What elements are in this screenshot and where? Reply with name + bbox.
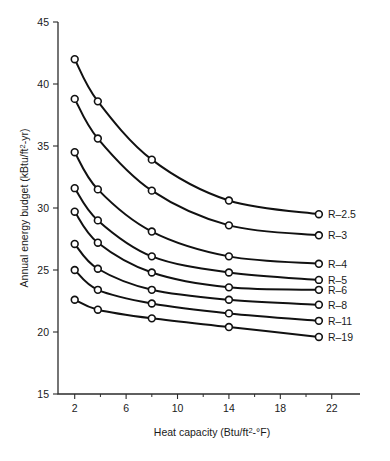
y-tick-label: 15	[37, 388, 49, 400]
y-tick-label: 30	[37, 202, 49, 214]
x-tick-label: 10	[172, 402, 184, 414]
y-axis-title: Annual energy budget (kBtu/ft2-yr)	[18, 129, 31, 288]
data-point	[226, 197, 233, 204]
series-label-r-8: R–8	[328, 299, 347, 311]
series-label-r-19: R–19	[328, 331, 353, 343]
data-point	[94, 217, 101, 224]
series-label-r-4: R–4	[328, 258, 347, 270]
series-label-r-2.5: R–2.5	[328, 208, 356, 220]
data-point	[226, 269, 233, 276]
data-point	[148, 228, 155, 235]
data-point	[148, 253, 155, 260]
y-tick-label: 45	[37, 16, 49, 28]
data-point	[315, 211, 322, 218]
series-label-r-6: R–6	[328, 284, 347, 296]
data-point	[71, 296, 78, 303]
data-point	[148, 156, 155, 163]
data-point	[148, 269, 155, 276]
x-tick-label: 6	[123, 402, 129, 414]
data-point	[315, 334, 322, 341]
data-point	[71, 185, 78, 192]
data-point	[71, 56, 78, 63]
y-tick-label: 40	[37, 78, 49, 90]
data-point	[148, 187, 155, 194]
data-point	[71, 267, 78, 274]
x-tick-label: 18	[274, 402, 286, 414]
data-point	[94, 265, 101, 272]
data-point	[226, 310, 233, 317]
line-chart: 2610141822 15202530354045 R–2.5R–3R–4R–5…	[0, 0, 390, 461]
x-tick-label: 22	[326, 402, 338, 414]
data-point	[94, 186, 101, 193]
y-tick-label: 20	[37, 326, 49, 338]
chart-axes	[58, 22, 360, 394]
data-point	[71, 149, 78, 156]
svg-text:Heat capacity (Btu/ft2-°F): Heat capacity (Btu/ft2-°F)	[154, 426, 270, 439]
x-axis-title: Heat capacity (Btu/ft2-°F)	[154, 426, 270, 439]
data-point	[226, 284, 233, 291]
series-line	[75, 152, 319, 264]
data-point	[71, 241, 78, 248]
data-point	[315, 260, 322, 267]
data-point	[315, 277, 322, 284]
figure-container: 2610141822 15202530354045 R–2.5R–3R–4R–5…	[0, 0, 390, 461]
axis-spine	[58, 22, 360, 394]
data-point	[148, 300, 155, 307]
x-axis-ticks: 2610141822	[72, 394, 338, 414]
series-line	[75, 59, 319, 214]
series-label-r-3: R–3	[328, 229, 347, 241]
data-point	[94, 286, 101, 293]
data-point	[226, 222, 233, 229]
data-point	[94, 306, 101, 313]
series-label-r-11: R–11	[328, 315, 352, 327]
data-point	[315, 286, 322, 293]
data-point	[94, 135, 101, 142]
data-point	[315, 301, 322, 308]
data-point	[94, 98, 101, 105]
data-point-markers	[71, 56, 322, 341]
svg-text:Annual energy budget (kBtu/ft2: Annual energy budget (kBtu/ft2-yr)	[18, 129, 31, 288]
data-series-group	[75, 59, 319, 337]
x-tick-label: 14	[223, 402, 235, 414]
data-point	[226, 296, 233, 303]
data-point	[315, 232, 322, 239]
x-tick-label: 2	[72, 402, 78, 414]
data-point	[226, 253, 233, 260]
data-point	[315, 317, 322, 324]
data-point	[94, 239, 101, 246]
data-point	[148, 286, 155, 293]
data-point	[71, 95, 78, 102]
data-point	[226, 324, 233, 331]
data-point	[148, 315, 155, 322]
y-tick-label: 35	[37, 140, 49, 152]
y-axis-ticks: 15202530354045	[37, 16, 58, 400]
y-tick-label: 25	[37, 264, 49, 276]
series-labels-group: R–2.5R–3R–4R–5R–6R–8R–11R–19	[328, 208, 356, 343]
data-point	[71, 208, 78, 215]
